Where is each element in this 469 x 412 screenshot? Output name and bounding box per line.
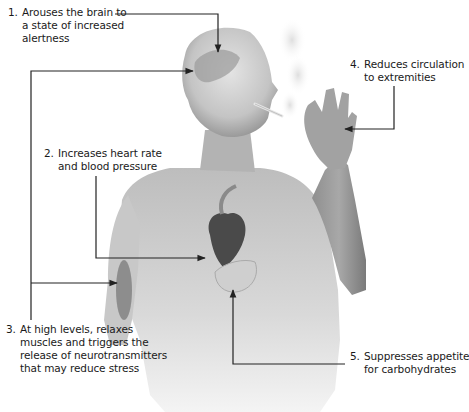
biceps-muscle [116,260,132,320]
callout-5-line-1: Suppresses appetite [364,350,469,362]
callout-4-line-2: to extremities [350,71,464,84]
callout-2: 2.Increases heart rate and blood pressur… [44,147,162,173]
callout-5: 5.Suppresses appetite for carbohydrates [350,350,469,376]
callout-1-line-2: a state of increased [8,19,127,32]
smoke [278,18,310,119]
callout-4-number: 4. [350,58,364,71]
callout-1-number: 1. [8,6,22,19]
callout-3: 3.At high levels, relaxes muscles and tr… [6,323,167,375]
callout-3-line-2: muscles and triggers the [6,336,167,349]
callout-3-line-3: release of neurotransmitters [6,349,167,362]
callout-4-line-1: Reduces circulation [364,58,464,70]
callout-5-line-2: for carbohydrates [350,363,469,376]
head [182,28,278,137]
callout-3-number: 3. [6,323,20,336]
callout-1-line-3: alertness [8,32,127,45]
callout-5-number: 5. [350,350,364,363]
callout-2-line-1: Increases heart rate [58,147,162,159]
callout-1-line-1: Arouses the brain to [22,6,127,18]
callout-4: 4.Reduces circulation to extremities [350,58,464,84]
callout-2-number: 2. [44,147,58,160]
callout-1: 1.Arouses the brain to a state of increa… [8,6,127,45]
callout-3-line-4: that may reduce stress [6,362,167,375]
callout-3-line-1: At high levels, relaxes [20,323,133,335]
callout-2-line-2: and blood pressure [44,160,162,173]
